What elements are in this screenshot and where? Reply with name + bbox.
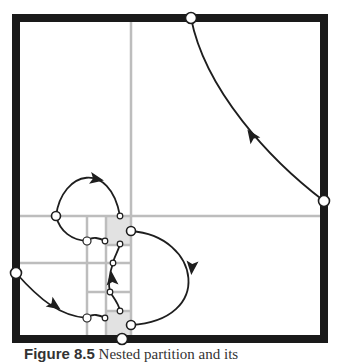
node-circle-icon <box>186 13 197 24</box>
node-circle-icon <box>117 241 123 247</box>
graph-nodes <box>11 13 330 345</box>
node-circle-icon <box>52 212 61 221</box>
node-circle-icon <box>319 196 330 207</box>
caption-label: Figure 8.5 <box>24 345 95 362</box>
caption-text: Nested partition and its <box>99 346 239 362</box>
node-circle-icon <box>11 268 22 279</box>
node-circle-icon <box>117 308 123 314</box>
node-circle-icon <box>127 321 136 330</box>
outer-frame <box>16 18 324 339</box>
node-circle-icon <box>107 289 113 295</box>
arrowhead-icon <box>89 172 105 186</box>
curve-right-loop <box>131 231 189 325</box>
node-circle-icon <box>83 237 91 245</box>
node-circle-icon <box>102 238 108 244</box>
figure-caption: Figure 8.5 Nested partition and its <box>24 345 338 363</box>
curve-arc-left-to-87 <box>16 273 87 318</box>
partition-grid-lines <box>20 22 320 335</box>
arrowhead-icon <box>105 271 118 286</box>
curve-arc-56-87 <box>56 216 87 241</box>
node-circle-icon <box>127 227 136 236</box>
curve-loop-upper-left <box>56 178 120 216</box>
trajectory-curves <box>16 18 324 325</box>
arrowhead-icon <box>242 126 260 144</box>
node-circle-icon <box>117 213 123 219</box>
node-circle-icon <box>117 334 128 345</box>
curve-arc-right-to-top <box>191 18 324 201</box>
node-circle-icon <box>102 315 108 321</box>
node-circle-icon <box>110 260 116 266</box>
direction-arrows <box>46 126 261 314</box>
node-circle-icon <box>83 314 91 322</box>
